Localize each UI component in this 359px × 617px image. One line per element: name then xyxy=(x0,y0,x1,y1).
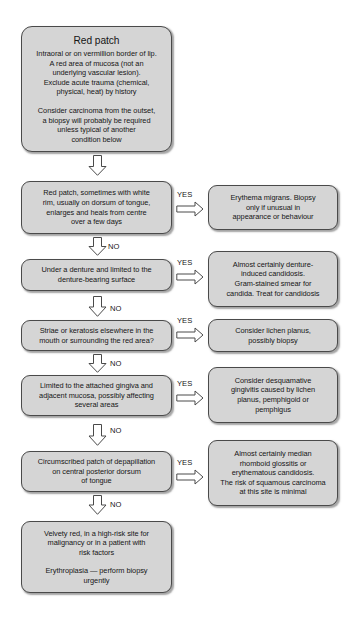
outcome-2-line-3: Gram-stained smear for xyxy=(235,279,312,289)
end-line-1: Velvety red, in a high-risk site for xyxy=(44,529,149,539)
decision-4-line-3: several areas xyxy=(75,400,119,410)
decision-3-line-2: mouth or surrounding the red area? xyxy=(39,336,154,346)
outcome-4-line-2: gingivitis caused by lichen xyxy=(231,385,315,395)
decision-5-yes-label: YES xyxy=(177,459,192,467)
node-outcome-5: Almost certainly median rhomboid glossit… xyxy=(208,440,338,506)
outcome-4-line-4: pemphigus xyxy=(255,405,291,415)
decision-2-line-1: Under a denture and limited to the xyxy=(41,265,151,275)
start-line-5: physical, heat) by history xyxy=(56,87,136,97)
start-line-8: unless typical of another xyxy=(57,125,135,135)
decision-1-line-2: rim, usually on dorsum of tongue, xyxy=(43,198,151,208)
end-line-2: malignancy or in a patient with xyxy=(48,538,146,548)
decision-1-yes-label: YES xyxy=(177,191,192,199)
outcome-5-line-2: rhomboid glossitis or xyxy=(240,459,307,469)
outcome-4-line-1: Consider desquamative xyxy=(235,376,312,386)
decision-2-yes-label: YES xyxy=(177,259,192,267)
outcome-2-line-1: Almost certainly denture- xyxy=(233,260,314,270)
decision-5-line-3: of tongue xyxy=(81,476,111,486)
node-red-patch-start: Red patch Intraoral or on vermillion bor… xyxy=(21,26,172,152)
node-outcome-2: Almost certainly denture- induced candid… xyxy=(208,251,338,307)
decision-4-line-2: adjacent mucosa, possibly affecting xyxy=(39,391,154,401)
outcome-5-line-4: The risk of squamous carcinoma xyxy=(220,478,325,488)
decision-4-yes-label: YES xyxy=(177,380,192,388)
decision-1-line-3: enlarges and heals from centre xyxy=(46,208,146,218)
outcome-5-line-5: at this site is minimal xyxy=(239,487,306,497)
right-arrow-decision-2-yes xyxy=(176,269,204,285)
outcome-1-line-3: appearance or behaviour xyxy=(232,212,313,222)
decision-5-no-label: NO xyxy=(110,501,121,509)
end-line-3: risk factors xyxy=(79,548,114,558)
down-arrow-decision-4-no xyxy=(88,424,107,446)
start-line-9: condition below xyxy=(71,135,121,145)
down-arrow-decision-2-no xyxy=(88,296,107,317)
node-erythroplasia-end: Velvety red, in a high-risk site for mal… xyxy=(21,521,172,593)
decision-5-line-2: on central posterior dorsum xyxy=(52,467,141,477)
node-decision-3-question: Striae or keratosis elsewhere in the mou… xyxy=(21,320,172,351)
right-arrow-decision-3-yes xyxy=(176,327,204,343)
outcome-2-line-4: candida. Treat for candidosis xyxy=(226,289,319,299)
right-arrow-decision-4-yes xyxy=(176,390,204,406)
outcome-5-line-1: Almost certainly median xyxy=(234,449,311,459)
flowchart-canvas: Red patch Intraoral or on vermillion bor… xyxy=(0,0,359,617)
down-arrow-start-to-decision-1 xyxy=(88,155,107,176)
decision-1-line-4: over a few days xyxy=(71,217,122,227)
down-arrow-decision-3-no xyxy=(88,354,107,373)
start-line-7: a biopsy will probably be required xyxy=(43,116,151,126)
node-outcome-4: Consider desquamative gingivitis caused … xyxy=(208,367,338,423)
outcome-1-line-1: Erythema migrans. Biopsy xyxy=(230,193,315,203)
decision-3-yes-label: YES xyxy=(177,317,192,325)
outcome-1-line-2: only if unusual in xyxy=(246,203,300,213)
decision-2-no-label: NO xyxy=(110,305,121,313)
node-outcome-3: Consider lichen planus, possibly biopsy xyxy=(208,319,338,352)
outcome-5-line-3: erythematous candidosis. xyxy=(232,468,315,478)
cut-off-top-text xyxy=(0,0,359,9)
decision-2-line-2: denture-bearing surface xyxy=(58,275,135,285)
decision-4-line-1: Limited to the attached gingiva and xyxy=(40,381,153,391)
outcome-4-line-3: planus, pemphigoid or xyxy=(237,395,309,405)
decision-3-line-1: Striae or keratosis elsewhere in the xyxy=(40,326,154,336)
start-line-2: A red area of mucosa (not an xyxy=(50,59,144,69)
outcome-3-line-1: Consider lichen planus, xyxy=(235,326,311,336)
end-line-5: urgently xyxy=(84,576,110,586)
decision-1-line-1: Red patch, sometimes with white xyxy=(43,188,149,198)
outcome-3-line-2: possibly biopsy xyxy=(248,336,297,346)
right-arrow-decision-1-yes xyxy=(176,201,204,217)
start-line-6: Consider carcinoma from the outset, xyxy=(38,106,155,116)
start-node-title: Red patch xyxy=(74,34,120,47)
node-outcome-1: Erythema migrans. Biopsy only if unusual… xyxy=(208,185,338,230)
node-decision-5-question: Circumscribed patch of depapillation on … xyxy=(21,451,172,492)
down-arrow-decision-5-no xyxy=(88,495,107,515)
start-line-3: underlying vascular lesion). xyxy=(52,68,140,78)
decision-5-line-1: Circumscribed patch of depapillation xyxy=(38,457,155,467)
outcome-2-line-2: induced candidosis. xyxy=(241,269,305,279)
decision-4-no-label: NO xyxy=(110,427,121,435)
node-decision-1-question: Red patch, sometimes with white rim, usu… xyxy=(21,181,172,234)
start-line-1: Intraoral or on vermillion border of lip… xyxy=(36,49,156,59)
start-line-4: Exclude acute trauma (chemical, xyxy=(44,78,150,88)
right-arrow-decision-5-yes xyxy=(176,469,204,485)
node-decision-4-question: Limited to the attached gingiva and adja… xyxy=(21,375,172,416)
down-arrow-decision-1-no xyxy=(88,237,107,256)
decision-1-no-label: NO xyxy=(108,243,119,251)
end-line-4: Erythroplasia — perform biopsy xyxy=(45,566,147,576)
decision-3-no-label: NO xyxy=(110,360,121,368)
node-decision-2-question: Under a denture and limited to the dentu… xyxy=(21,259,172,291)
